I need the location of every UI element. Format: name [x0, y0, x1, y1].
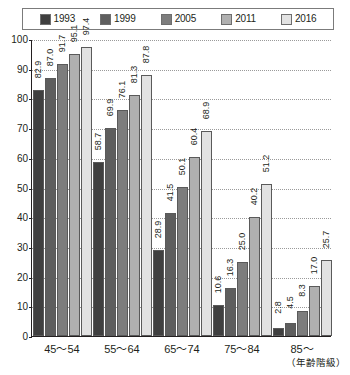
- bar-slot: 4.5: [285, 40, 296, 336]
- legend-swatch-icon: [40, 14, 51, 25]
- legend-item: 1993: [40, 14, 75, 25]
- bar-group-bars: 10.616.325.040.251.2: [212, 40, 272, 336]
- bar-slot: 95.1: [69, 40, 80, 336]
- bar[interactable]: [165, 213, 176, 336]
- bar[interactable]: [297, 311, 308, 336]
- bar[interactable]: [285, 323, 296, 336]
- bar-slot: 8.3: [297, 40, 308, 336]
- bar-value-label: 58.7: [94, 132, 103, 150]
- bar-slot: 81.3: [129, 40, 140, 336]
- bar-value-label: 91.7: [58, 34, 67, 52]
- bar-group: 2.84.58.317.025.785～: [272, 40, 332, 336]
- bar-slot: 25.7: [321, 40, 332, 336]
- bar[interactable]: [93, 162, 104, 336]
- bar-value-label: 40.2: [250, 187, 259, 205]
- bar[interactable]: [261, 184, 272, 336]
- bar-chart: 19931999200520112016 0102030405060708090…: [0, 0, 350, 375]
- legend-label: 1993: [54, 14, 75, 24]
- x-axis-category-label: 65～74: [152, 343, 212, 355]
- bar-slot: 68.9: [201, 40, 212, 336]
- bar-slot: 87.8: [141, 40, 152, 336]
- bar[interactable]: [117, 110, 128, 336]
- bar-value-label: 17.0: [310, 256, 319, 274]
- bar[interactable]: [225, 288, 236, 336]
- bar-slot: 28.9: [153, 40, 164, 336]
- bar[interactable]: [213, 305, 224, 336]
- bar-value-label: 8.3: [298, 285, 307, 298]
- bar-slot: 97.4: [81, 40, 92, 336]
- bar[interactable]: [189, 157, 200, 336]
- bar-group-bars: 28.941.550.160.468.9: [152, 40, 212, 336]
- bar-slot: 82.9: [33, 40, 44, 336]
- bar-value-label: 4.5: [286, 296, 295, 309]
- bar-group: 58.769.976.181.387.855～64: [92, 40, 152, 336]
- bar-value-label: 81.3: [130, 65, 139, 83]
- y-axis-tick-label: 10: [17, 302, 28, 312]
- bar[interactable]: [141, 75, 152, 336]
- y-axis-tick-label: 20: [17, 273, 28, 283]
- bar-group-bars: 58.769.976.181.387.8: [92, 40, 152, 336]
- bar[interactable]: [237, 262, 248, 336]
- legend-label: 2005: [175, 14, 196, 24]
- bar-slot: 50.1: [177, 40, 188, 336]
- legend-item: 2016: [281, 14, 316, 25]
- bar-value-label: 51.2: [262, 155, 271, 173]
- bar-slot: 51.2: [261, 40, 272, 336]
- bar-slot: 16.3: [225, 40, 236, 336]
- y-axis-tick-label: 50: [17, 184, 28, 194]
- bar-group: 82.987.091.795.197.445～54: [32, 40, 92, 336]
- bar-value-label: 25.0: [238, 232, 247, 250]
- legend-swatch-icon: [161, 14, 172, 25]
- bar-slot: 17.0: [309, 40, 320, 336]
- bar[interactable]: [105, 128, 116, 336]
- bar[interactable]: [81, 47, 92, 336]
- bar-slot: 10.6: [213, 40, 224, 336]
- bar[interactable]: [177, 187, 188, 336]
- bar-slot: 69.9: [105, 40, 116, 336]
- y-axis-tick-label: 30: [17, 243, 28, 253]
- bar-group: 28.941.550.160.468.965～74: [152, 40, 212, 336]
- legend-item: 2011: [221, 14, 256, 25]
- bar[interactable]: [153, 250, 164, 336]
- bar[interactable]: [321, 260, 332, 336]
- bar-slot: 58.7: [93, 40, 104, 336]
- y-axis-tick-label: 100: [11, 35, 28, 45]
- legend-label: 2011: [235, 14, 256, 24]
- bar-value-label: 68.9: [202, 102, 211, 120]
- bar-value-label: 87.8: [142, 46, 151, 64]
- legend-swatch-icon: [221, 14, 232, 25]
- bar-group-bars: 82.987.091.795.197.4: [32, 40, 92, 336]
- bar[interactable]: [57, 64, 68, 336]
- bar-slot: 76.1: [117, 40, 128, 336]
- bar-value-label: 69.9: [106, 99, 115, 117]
- y-axis-tick-label: 90: [17, 65, 28, 75]
- bar[interactable]: [201, 131, 212, 336]
- bar[interactable]: [45, 78, 56, 336]
- bar[interactable]: [249, 217, 260, 336]
- bar-slot: 40.2: [249, 40, 260, 336]
- bar-group-bars: 2.84.58.317.025.7: [272, 40, 332, 336]
- bar-value-label: 41.5: [166, 183, 175, 201]
- legend-swatch-icon: [100, 14, 111, 25]
- y-axis-tick-label: 80: [17, 94, 28, 104]
- bar[interactable]: [33, 90, 44, 336]
- bar[interactable]: [129, 95, 140, 336]
- bar-value-label: 10.6: [214, 275, 223, 293]
- bar-group: 10.616.325.040.251.275～84: [212, 40, 272, 336]
- y-axis-tick-label: 60: [17, 154, 28, 164]
- legend-swatch-icon: [281, 14, 292, 25]
- y-axis-tick-label: 70: [17, 124, 28, 134]
- bar[interactable]: [309, 286, 320, 336]
- y-axis-tick-label: 40: [17, 213, 28, 223]
- bar-slot: 91.7: [57, 40, 68, 336]
- bar-slot: 60.4: [189, 40, 200, 336]
- bar-value-label: 95.1: [70, 24, 79, 42]
- bar-value-label: 2.8: [274, 301, 283, 314]
- x-axis-label: （年齢階級）: [286, 358, 346, 368]
- bar-slot: 41.5: [165, 40, 176, 336]
- legend-item: 1999: [100, 14, 135, 25]
- bar-value-label: 60.4: [190, 127, 199, 145]
- bar[interactable]: [273, 328, 284, 336]
- bar-value-label: 97.4: [82, 17, 91, 35]
- bar[interactable]: [69, 54, 80, 336]
